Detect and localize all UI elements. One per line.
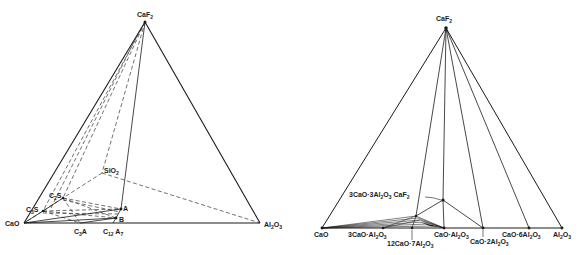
- tie-c3s-b: [43, 211, 116, 218]
- tie-caf2-c3a3f: [443, 28, 446, 200]
- arrow-c3a3f: [425, 197, 441, 200]
- tie-caf2-ca6: [446, 28, 529, 228]
- right-ternary: CaF2 CaO Al2O3 3CaO·Al2O3 12CaO·7Al2O3 C…: [314, 15, 571, 249]
- point-ca2: [482, 227, 485, 230]
- label-caf2-right: CaF2: [436, 15, 452, 24]
- edge-caf2-al2o3: [145, 22, 260, 223]
- left-tetrahedron: CaF2 CaO Al2O3 SiO2 C2S C3S A B C3A C12 …: [5, 11, 282, 237]
- tie-c3a3f-c12a7: [416, 200, 443, 216]
- point-c3s: [42, 210, 44, 212]
- phase-diagrams: CaF2 CaO Al2O3 SiO2 C2S C3S A B C3A C12 …: [0, 0, 579, 255]
- tie-c3a3f-ca2: [443, 200, 483, 228]
- edge-caf2-cao-right: [322, 28, 446, 228]
- point-ca6: [528, 227, 531, 230]
- edge-caf2-cao: [24, 22, 145, 223]
- tie-cao-b: [24, 218, 116, 223]
- point-caf2: [144, 21, 147, 24]
- label-ca6-right: CaO·6Al2O3: [502, 231, 541, 240]
- point-caf2-right: [444, 26, 448, 30]
- point-c3a3f: [441, 198, 444, 201]
- label-ca-right: CaO·Al2O3: [434, 231, 469, 240]
- edge-caf2-a: [121, 22, 145, 209]
- tie-c3s-ab: [43, 213, 118, 214]
- tie-c2s-c3s: [43, 198, 63, 211]
- liquid-fan: [322, 216, 444, 228]
- point-al2o3-right: [561, 227, 564, 230]
- label-a: A: [123, 205, 128, 212]
- tie-caf2-ca2: [446, 28, 483, 228]
- tie-cao-a: [24, 209, 121, 223]
- label-c3a-right: 3CaO·Al2O3: [348, 231, 387, 240]
- label-b: B: [119, 216, 124, 223]
- label-al2o3-left: Al2O3: [264, 221, 282, 230]
- point-a: [120, 208, 123, 211]
- edge-caf2-al2o3-right: [446, 28, 562, 228]
- point-fan-node: [415, 215, 417, 217]
- point-c12a7: [411, 227, 414, 230]
- label-cao-right: CaO: [314, 231, 329, 238]
- label-cao-left: CaO: [5, 220, 20, 227]
- tie-c2s-a: [63, 198, 121, 209]
- point-ca: [443, 227, 446, 230]
- edge-caf2-sio2: [102, 22, 145, 173]
- label-al2o3-right: Al2O3: [553, 231, 571, 240]
- label-c3a: C3A: [74, 228, 87, 237]
- point-c2s: [62, 197, 64, 199]
- tie-c3a3f-ca: [443, 200, 444, 228]
- label-c3s: C3S: [26, 206, 39, 215]
- label-c3a3f-right: 3CaO·3Al2O3 CaF2: [349, 191, 410, 200]
- tie-caf2-c12a7: [416, 28, 446, 216]
- point-c3a: [382, 227, 385, 230]
- tie-c2s-b: [63, 198, 116, 218]
- label-ca2-right: CaO·2Al2O3: [470, 238, 509, 247]
- point-b: [115, 217, 118, 220]
- label-caf2-left: CaF2: [137, 11, 153, 20]
- label-c12a7-right: 12CaO·7Al2O3: [387, 240, 434, 249]
- label-sio2: SiO2: [104, 167, 119, 176]
- point-cao-right: [321, 227, 324, 230]
- label-c12a7: C12 A7: [103, 228, 123, 237]
